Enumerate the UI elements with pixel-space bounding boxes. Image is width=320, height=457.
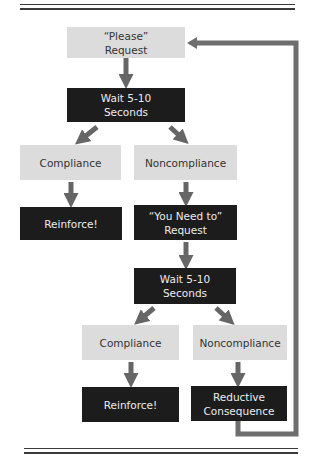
arrow-wait1-to-compliance1 xyxy=(82,127,97,139)
compliance-box-1: Compliance xyxy=(20,145,121,180)
please-request-box: “Please”Request xyxy=(67,27,185,58)
feedback-arrowhead xyxy=(187,37,197,49)
you-need-to-request-box: “You Need to”Request xyxy=(134,205,237,240)
you-need-to-line2: Request xyxy=(164,224,207,236)
reinforce1-label: Reinforce! xyxy=(44,217,98,231)
noncompliance2-label: Noncompliance xyxy=(199,336,280,350)
bottom-rule-thin xyxy=(24,448,298,449)
reinforce2-label: Reinforce! xyxy=(104,398,158,412)
reinforce-box-1: Reinforce! xyxy=(20,207,122,240)
compliance-box-2: Compliance xyxy=(82,325,179,360)
noncompliance-box-2: Noncompliance xyxy=(193,325,287,360)
reductive-line1: Reductive xyxy=(213,391,265,403)
wait1-line2: Seconds xyxy=(104,106,148,118)
bottom-rule-thick xyxy=(24,452,298,454)
noncompliance1-label: Noncompliance xyxy=(145,156,226,170)
arrow-wait2-to-noncompliance2 xyxy=(216,308,228,319)
wait-box-1: Wait 5-10Seconds xyxy=(67,88,185,122)
wait-box-2: Wait 5-10Seconds xyxy=(134,268,236,304)
noncompliance-box-1: Noncompliance xyxy=(134,145,237,180)
compliance2-label: Compliance xyxy=(100,336,162,350)
reductive-line2: Consequence xyxy=(203,405,274,417)
reductive-consequence-box: ReductiveConsequence xyxy=(191,386,287,421)
arrow-wait2-to-compliance2 xyxy=(141,308,154,319)
you-need-to-line1: “You Need to” xyxy=(149,210,222,222)
please-request-line1: “Please” xyxy=(104,30,149,42)
arrow-wait1-to-noncompliance1 xyxy=(170,127,182,138)
wait2-line2: Seconds xyxy=(163,287,207,299)
please-request-line2: Request xyxy=(105,44,148,56)
wait2-line1: Wait 5-10 xyxy=(160,273,210,285)
wait1-line1: Wait 5-10 xyxy=(101,92,151,104)
reinforce-box-2: Reinforce! xyxy=(82,387,179,422)
compliance1-label: Compliance xyxy=(40,156,102,170)
